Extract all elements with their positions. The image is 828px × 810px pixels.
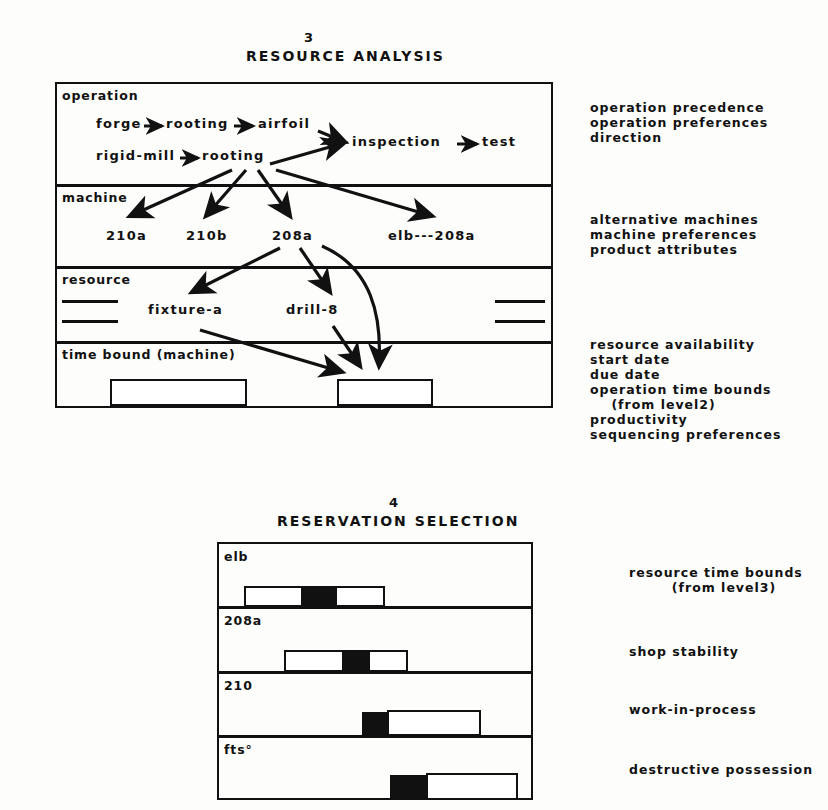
resource-dash-left-1 (62, 300, 118, 303)
operation-node-inspection: inspection (352, 134, 441, 149)
figure-3-annotation-machine-3: product attributes (590, 242, 738, 257)
figure-4-annotation-elb-2: (from level3) (629, 580, 776, 595)
figure-3-annotation-machine-2: machine preferences (590, 227, 757, 242)
operation-node-rooting-2: rooting (202, 148, 265, 163)
row-label-machine: machine (62, 190, 128, 205)
resource-dash-right-2 (495, 320, 545, 323)
operation-node-airfoil: airfoil (258, 116, 310, 131)
resource-node-drill-8: drill-8 (286, 302, 339, 317)
figure-4-number: 4 (389, 495, 399, 510)
row-label-time-bound: time bound (machine) (62, 347, 236, 362)
figure-3-title: RESOURCE ANALYSIS (246, 48, 445, 64)
machine-node-elb-208a: elb---208a (388, 228, 476, 243)
figure-3-divider-resource-timebound (55, 341, 553, 344)
figure-4-row2-bar-white-right (368, 650, 408, 672)
figure-3-annotation-resource-3: due date (590, 367, 661, 382)
row-label-operation: operation (62, 88, 138, 103)
figure-4-row1-bar-black (301, 586, 337, 607)
operation-node-forge: forge (96, 116, 142, 131)
operation-node-test: test (482, 134, 516, 149)
figure-3-annotation-resource-2: start date (590, 352, 670, 367)
figure-4-row4-bar-black (390, 775, 428, 800)
figure-3-annotation-operation-2: operation preferences (590, 115, 768, 130)
time-bound-bar-1 (110, 379, 247, 406)
figure-4-row3-bar-white (387, 710, 481, 736)
resource-node-fixture-a: fixture-a (148, 302, 223, 317)
figure-3-annotation-resource-7: sequencing preferences (590, 427, 781, 442)
figure-4-row1-bar-white-right (335, 586, 385, 607)
figure-3-number: 3 (304, 30, 314, 45)
figure-3-annotation-resource-1: resource availability (590, 337, 755, 352)
figure-3-annotation-resource-5: (from level2) (590, 397, 716, 412)
figure-4-row-label-210: 210 (224, 678, 253, 693)
machine-node-208a: 208a (272, 228, 313, 243)
operation-node-rigid-mill: rigid-mill (96, 148, 175, 163)
figure-4-row1-bar-white-left (244, 586, 303, 607)
scanned-figure-page: 3 RESOURCE ANALYSIS operation machine re… (0, 0, 828, 810)
figure-4-row4-bar-white (426, 773, 518, 800)
row-label-resource: resource (62, 272, 131, 287)
figure-4-annotation-elb-1: resource time bounds (629, 565, 803, 580)
machine-node-210a: 210a (106, 228, 147, 243)
figure-3-annotation-resource-4: operation time bounds (590, 382, 772, 397)
resource-dash-left-2 (62, 320, 118, 323)
figure-4-annotation-210: work-in-process (629, 702, 757, 717)
figure-3-annotation-machine-1: alternative machines (590, 212, 759, 227)
figure-3-annotation-resource-6: productivity (590, 412, 688, 427)
figure-3-divider-machine-resource (55, 266, 553, 269)
figure-4-annotation-fts: destructive possession (629, 762, 813, 777)
figure-3-annotation-operation-1: operation precedence (590, 100, 764, 115)
figure-4-row-label-elb: elb (224, 549, 248, 564)
machine-node-210b: 210b (186, 228, 228, 243)
figure-4-title: RESERVATION SELECTION (277, 513, 519, 529)
operation-node-rooting-1: rooting (166, 116, 229, 131)
figure-4-row2-bar-black (342, 650, 370, 672)
figure-4-row-label-fts: fts° (224, 742, 253, 757)
figure-3-annotation-operation-3: direction (590, 130, 662, 145)
resource-dash-right-1 (495, 300, 545, 303)
figure-4-row-label-208a: 208a (224, 613, 262, 628)
figure-3-divider-operation-machine (55, 184, 553, 187)
figure-4-annotation-208a: shop stability (629, 644, 739, 659)
figure-4-row2-bar-white-left (284, 650, 344, 672)
time-bound-bar-2 (337, 379, 433, 406)
figure-4-row3-bar-black (362, 712, 389, 736)
